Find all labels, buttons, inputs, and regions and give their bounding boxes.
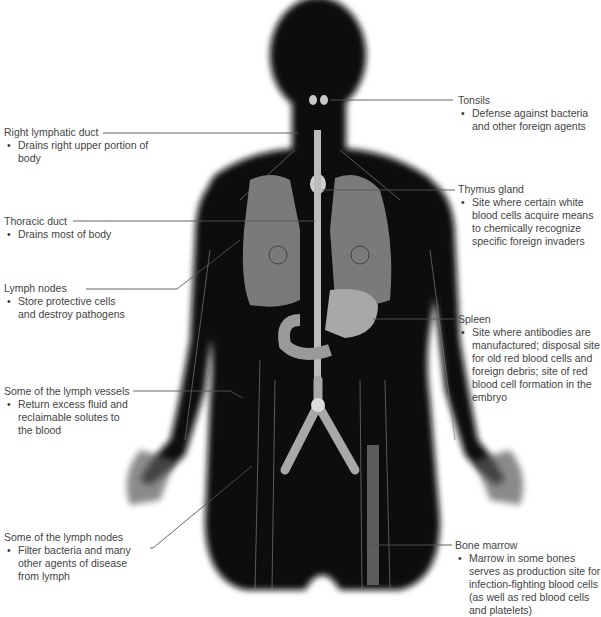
body-silhouette bbox=[140, 0, 505, 590]
label-title: Thymus gland bbox=[458, 183, 601, 196]
label-desc: Drains right upper portion of body bbox=[4, 139, 154, 165]
label-title: Lymph nodes bbox=[4, 282, 134, 295]
label-spleen: Spleen Site where antibodies are manufac… bbox=[458, 313, 601, 404]
label-desc: Return excess fluid and reclaimable solu… bbox=[4, 398, 129, 437]
thoracic-duct bbox=[314, 130, 321, 380]
label-title: Right lymphatic duct bbox=[4, 126, 154, 139]
label-title: Some of the lymph vessels bbox=[4, 385, 129, 398]
label-desc: Site where certain white blood cells acq… bbox=[458, 196, 601, 248]
label-tonsils: Tonsils Defense against bacteria and oth… bbox=[458, 94, 598, 133]
label-title: Tonsils bbox=[458, 94, 598, 107]
label-title: Bone marrow bbox=[455, 539, 601, 552]
label-some-lymph-nodes: Some of the lymph nodes Filter bacteria … bbox=[4, 531, 134, 583]
label-title: Spleen bbox=[458, 313, 601, 326]
label-lymph-vessels: Some of the lymph vessels Return excess … bbox=[4, 385, 129, 437]
label-desc: Site where antibodies are manufactured; … bbox=[458, 326, 601, 404]
label-bone-marrow: Bone marrow Marrow in some bones serves … bbox=[455, 539, 601, 617]
label-title: Some of the lymph nodes bbox=[4, 531, 134, 544]
label-desc: Drains most of body bbox=[4, 228, 154, 241]
femur bbox=[367, 445, 379, 585]
label-desc: Store protective cells and destroy patho… bbox=[4, 295, 134, 321]
label-desc: Filter bacteria and many other agents of… bbox=[4, 544, 134, 583]
label-title: Thoracic duct bbox=[4, 215, 154, 228]
label-thymus-gland: Thymus gland Site where certain white bl… bbox=[458, 183, 601, 248]
label-right-lymphatic-duct: Right lymphatic duct Drains right upper … bbox=[4, 126, 154, 165]
label-thoracic-duct: Thoracic duct Drains most of body bbox=[4, 215, 154, 241]
lung-left bbox=[243, 175, 300, 307]
label-lymph-nodes: Lymph nodes Store protective cells and d… bbox=[4, 282, 134, 321]
label-desc: Marrow in some bones serves as productio… bbox=[455, 552, 601, 617]
label-desc: Defense against bacteria and other forei… bbox=[458, 107, 598, 133]
